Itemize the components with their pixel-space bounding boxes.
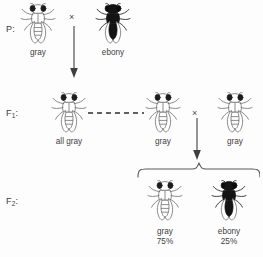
generation-label-p: P:	[6, 24, 15, 34]
fly-f1-gray-left	[143, 90, 183, 136]
fly-f2-ebony	[209, 178, 249, 224]
fly-f1-gray-right-caption: gray	[205, 137, 263, 147]
curly-brace-f2	[134, 160, 260, 178]
fly-f2-gray-percent: 75%	[135, 237, 195, 247]
fly-f2-gray-caption: gray 75%	[135, 227, 195, 247]
fly-f2-gray	[145, 178, 185, 224]
fly-f1-all-gray-caption: all gray	[39, 137, 99, 147]
gray-fly-illustration	[145, 178, 185, 224]
ebony-fly-illustration	[93, 1, 133, 47]
arrow-p-to-f1	[66, 26, 82, 80]
generation-label-p-text: P:	[6, 24, 15, 34]
fly-p-ebony-caption: ebony	[83, 48, 143, 58]
fly-f1-gray-left-caption: gray	[133, 137, 193, 147]
fly-f1-gray-right	[215, 90, 255, 136]
arrow-f1-to-f2	[189, 118, 205, 162]
cross-symbol-p: ×	[69, 13, 74, 22]
fly-p-gray	[18, 1, 58, 47]
ebony-fly-illustration	[209, 178, 249, 224]
fly-f2-ebony-caption: ebony 25%	[199, 227, 259, 247]
generation-label-f1-sub: 1	[12, 112, 16, 119]
fly-f2-gray-phenotype: gray	[135, 227, 195, 237]
gray-fly-illustration	[18, 1, 58, 47]
fly-f2-ebony-percent: 25%	[199, 237, 259, 247]
generation-label-f2-letter: F	[6, 196, 12, 206]
genetics-cross-diagram: P:	[0, 0, 263, 257]
gray-fly-illustration	[143, 90, 183, 136]
cross-symbol-f1: ×	[192, 109, 197, 118]
fly-p-ebony	[93, 1, 133, 47]
generation-label-f1: F1:	[6, 108, 18, 118]
fly-f1-all-gray	[49, 90, 89, 136]
gray-fly-illustration	[49, 90, 89, 136]
generation-label-f2: F2:	[6, 196, 18, 206]
dashed-link-f1	[88, 108, 144, 118]
gray-fly-illustration	[215, 90, 255, 136]
fly-f2-ebony-phenotype: ebony	[199, 227, 259, 237]
generation-label-f1-letter: F	[6, 108, 12, 118]
fly-p-gray-caption: gray	[8, 48, 68, 58]
generation-label-f2-sub: 2	[12, 200, 16, 207]
